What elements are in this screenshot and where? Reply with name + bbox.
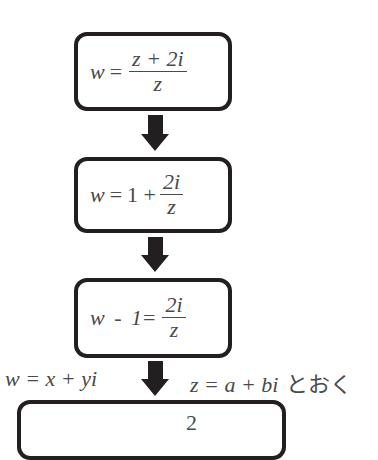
- step-2-lhs: w: [90, 182, 105, 208]
- step-1-equals: =: [110, 59, 122, 85]
- step-1-lhs: w: [90, 59, 105, 85]
- step-3-equals: =: [143, 305, 155, 331]
- down-arrow-icon: [141, 361, 169, 396]
- step-1-fraction: z + 2i z: [129, 48, 187, 96]
- substitution-w-label: w = x + yi: [5, 366, 97, 392]
- step-3-denominator: z: [170, 318, 179, 342]
- down-arrow-icon: [141, 115, 169, 151]
- step-2-denominator: z: [167, 195, 176, 219]
- substitution-z-label: z = a + biとおく: [190, 366, 352, 398]
- step-3-numerator: 2i: [162, 294, 185, 318]
- step-2-equation: w = 1 + 2i z: [90, 161, 185, 229]
- step-2-prefix: 1 +: [127, 182, 156, 208]
- step-1-numerator: z + 2i: [129, 48, 187, 72]
- step-4-partial-glyph: 2: [186, 410, 197, 436]
- step-1-equation: w = z + 2i z: [90, 36, 189, 107]
- step-3-lhs: w - 1: [90, 305, 142, 331]
- substitution-suffix: とおく: [286, 372, 352, 397]
- step-1-denominator: z: [154, 72, 163, 96]
- substitution-z-expression: z = a + bi: [190, 372, 278, 397]
- down-arrow-icon: [141, 237, 169, 272]
- step-3-fraction: 2i z: [162, 294, 185, 342]
- step-2-fraction: 2i z: [160, 171, 183, 219]
- step-2-numerator: 2i: [160, 171, 183, 195]
- step-3-equation: w - 1 = 2i z: [90, 282, 188, 354]
- step-2-equals: =: [110, 182, 122, 208]
- step-4-box: [17, 400, 286, 460]
